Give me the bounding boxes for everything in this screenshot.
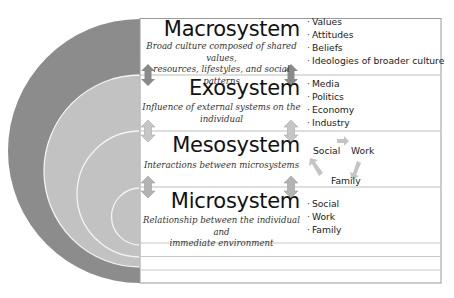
list-item: Family — [307, 223, 341, 236]
list-item: Economy — [307, 103, 354, 116]
list-item: Ideologies of broader culture — [307, 54, 444, 67]
ecological-systems-diagram: Macrosystem Broad culture composed of sh… — [0, 0, 454, 298]
description-line: Relationship between the individual and — [140, 215, 303, 238]
list-item: Media — [307, 77, 354, 90]
description-line: immediate environment — [140, 238, 303, 250]
layer-title: Exosystem — [140, 77, 300, 99]
layer-items: Social Work Family — [307, 197, 341, 236]
layer-items: Values Attitudes Beliefs Ideologies of b… — [307, 15, 444, 67]
layer-description: Interactions between microsystems — [140, 160, 303, 172]
layer-description: Influence of external systems on the ind… — [140, 102, 303, 125]
layer-title: Macrosystem — [140, 18, 300, 40]
layer-items: Media Politics Economy Industry — [307, 77, 354, 129]
list-item: Attitudes — [307, 28, 444, 41]
list-item: Beliefs — [307, 41, 444, 54]
layer-description: Relationship between the individual and … — [140, 215, 303, 250]
list-item: Politics — [307, 90, 354, 103]
layer-title: Mesosystem — [140, 134, 300, 156]
description-line: Broad culture composed of shared values, — [140, 41, 303, 64]
cycle-node-family: Family — [331, 175, 361, 186]
list-item: Social — [307, 197, 341, 210]
list-item: Work — [307, 210, 341, 223]
cycle-node-social: Social — [313, 145, 340, 156]
cycle-node-work: Work — [351, 145, 374, 156]
list-item: Values — [307, 15, 444, 28]
list-item: Industry — [307, 116, 354, 129]
description-line: individual — [140, 114, 303, 126]
description-line: Influence of external systems on the — [140, 102, 303, 114]
layer-title: Microsystem — [140, 190, 300, 212]
description-line: Interactions between microsystems — [140, 160, 303, 172]
